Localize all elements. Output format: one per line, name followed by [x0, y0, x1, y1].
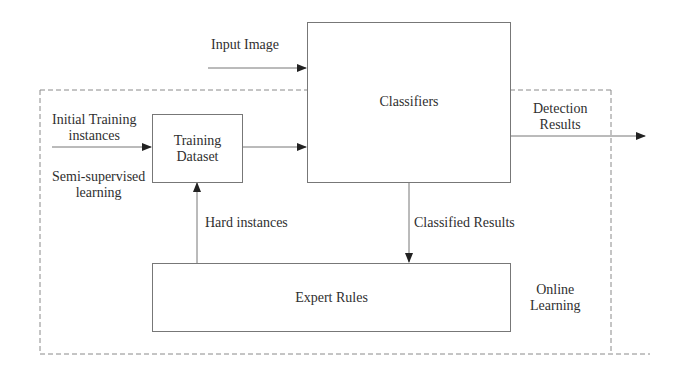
- training-dataset-line2: Dataset: [177, 149, 219, 164]
- classifiers-box: Classifiers: [307, 22, 511, 183]
- classifiers-label: Classifiers: [379, 94, 438, 110]
- input-image-label: Input Image: [211, 37, 279, 53]
- detection-line1: Detection: [533, 101, 587, 116]
- initial-training-line1: Initial Training: [52, 112, 136, 127]
- initial-training-line2: instances: [69, 128, 120, 143]
- semi-supervised-line2: learning: [76, 185, 122, 200]
- semi-supervised-label: Semi-supervised learning: [52, 169, 145, 201]
- expert-rules-box: Expert Rules: [152, 263, 511, 332]
- training-dataset-box: Training Dataset: [152, 114, 243, 183]
- hard-instances-label: Hard instances: [205, 215, 288, 231]
- online-learning-label: Online Learning: [530, 282, 581, 314]
- semi-supervised-line1: Semi-supervised: [52, 169, 145, 184]
- training-dataset-label: Training Dataset: [174, 133, 222, 165]
- online-line2: Learning: [530, 298, 581, 313]
- detection-line2: Results: [540, 117, 581, 132]
- training-dataset-line1: Training: [174, 133, 222, 148]
- online-line1: Online: [536, 282, 574, 297]
- initial-training-label: Initial Training instances: [52, 112, 136, 144]
- expert-rules-label: Expert Rules: [295, 290, 368, 306]
- classified-results-label: Classified Results: [414, 215, 515, 231]
- detection-results-label: Detection Results: [533, 101, 587, 133]
